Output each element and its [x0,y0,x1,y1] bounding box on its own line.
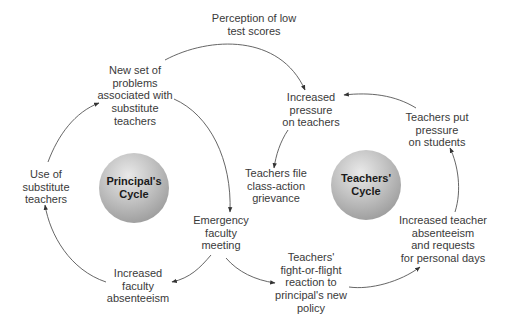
node-faculty-absenteeism: Increased faculty absenteeism [107,267,169,305]
node-increased-pressure: Increased pressure on teachers [282,91,339,129]
node-text: meeting [193,239,249,252]
node-text: Perception of low [212,12,296,25]
node-text: teachers [22,193,69,206]
arrow-absenteeism-to-substitutes [45,205,106,282]
node-text: substitute [22,181,69,194]
arrow-meeting-to-absenteeism [172,255,211,282]
node-text: faculty [107,280,169,293]
node-text: problems [97,77,172,90]
node-text: Increased [282,91,339,104]
sphere-label-line1: Teachers' [341,172,391,185]
node-text: Emergency [193,214,249,227]
node-text: teachers [97,115,172,128]
node-text: Use of [22,168,69,181]
sphere-label-line2: Cycle [351,185,380,198]
node-text: on teachers [282,116,339,129]
node-text: Teachers' [275,251,347,264]
node-text: on students [406,136,469,149]
node-text: test scores [212,25,296,38]
node-text: principal's new [275,289,347,302]
arrow-substitutes-to-problems [48,103,99,162]
feedback-cycles-diagram: Principal's Cycle Teachers' Cycle Percep… [0,0,508,330]
node-text: absenteeism [107,292,169,305]
node-text: faculty [193,227,249,240]
sphere-label-line2: Cycle [119,188,148,201]
node-new-problems: New set of problems associated with subs… [97,64,172,128]
node-text: New set of [97,64,172,77]
node-text: policy [275,302,347,315]
arrow-absenteeism-to-students [450,148,459,212]
node-teachers-put-pressure: Teachers put pressure on students [406,111,469,149]
node-text: grievance [245,192,307,205]
arrow-students-to-pressure [344,94,416,108]
node-class-action: Teachers file class-action grievance [245,167,307,205]
node-text: Teachers put [406,111,469,124]
arrow-problems-to-pressure [165,44,305,90]
arrow-problems-to-meeting [174,99,230,212]
node-text: absenteeism [399,227,487,240]
node-text: pressure [406,124,469,137]
node-text: Increased teacher [399,214,487,227]
sphere-label-line1: Principal's [106,175,161,188]
teachers-cycle-sphere: Teachers' Cycle [331,150,401,220]
node-perception-low-scores: Perception of low test scores [212,12,296,37]
node-text: for personal days [399,252,487,265]
node-text: reaction to [275,276,347,289]
principals-cycle-sphere: Principal's Cycle [99,153,169,223]
node-text: associated with [97,89,172,102]
node-text: Teachers file [245,167,307,180]
arrow-meeting-to-fightflight [226,258,275,283]
node-text: fight-or-flight [275,264,347,277]
arrow-pressure-to-grievance [274,130,288,168]
arrow-fightflight-to-absenteeism [349,267,420,288]
node-emergency-meeting: Emergency faculty meeting [193,214,249,252]
node-text: substitute [97,102,172,115]
node-fight-or-flight: Teachers' fight-or-flight reaction to pr… [275,251,347,315]
arrows-layer [0,0,508,330]
node-text: Increased [107,267,169,280]
node-teacher-absenteeism: Increased teacher absenteeism and reques… [399,214,487,265]
node-text: and requests [399,239,487,252]
node-use-of-substitutes: Use of substitute teachers [22,168,69,206]
node-text: pressure [282,104,339,117]
node-text: class-action [245,180,307,193]
